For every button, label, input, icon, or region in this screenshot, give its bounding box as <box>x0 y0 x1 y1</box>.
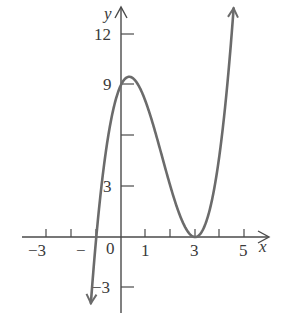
x-tick-label-0: 0 <box>106 239 115 258</box>
x-tick-label-neg1: − <box>76 241 86 260</box>
y-axis-label: y <box>102 4 112 23</box>
x-tick-label-neg3: −3 <box>28 241 46 260</box>
function-curve <box>91 8 234 303</box>
x-axis-label: x <box>258 237 267 256</box>
x-axis-ticks <box>46 229 244 237</box>
y-axis-ticks <box>121 34 134 287</box>
y-axis <box>115 7 134 313</box>
y-tick-label-12: 12 <box>94 25 111 44</box>
chart-canvas: y 12 9 3 −3 −3 − 0 1 3 5 x <box>0 0 288 315</box>
y-tick-label-9: 9 <box>103 75 112 94</box>
x-tick-label-1: 1 <box>141 241 150 260</box>
y-tick-label-neg3: −3 <box>92 278 110 297</box>
y-tick-label-3: 3 <box>103 177 112 196</box>
x-tick-label-5: 5 <box>239 241 248 260</box>
x-tick-label-3: 3 <box>190 241 199 260</box>
